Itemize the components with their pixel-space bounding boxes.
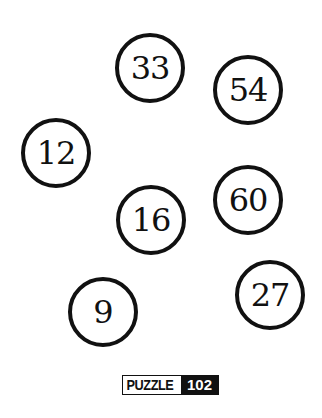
puzzle-label: PUZZLE xyxy=(123,376,172,394)
circle-33: 33 xyxy=(115,33,185,103)
circle-16: 16 xyxy=(116,185,186,255)
circle-number: 33 xyxy=(131,52,170,84)
circle-60: 60 xyxy=(213,165,283,235)
circle-9: 9 xyxy=(68,277,138,347)
circle-54: 54 xyxy=(213,55,283,125)
circle-number: 12 xyxy=(37,137,76,169)
puzzle-badge: PUZZLE 102 xyxy=(122,375,219,395)
puzzle-number: 102 xyxy=(181,376,218,394)
circle-number: 54 xyxy=(229,74,268,106)
circle-number: 9 xyxy=(93,296,112,328)
circle-number: 27 xyxy=(251,279,290,311)
circle-12: 12 xyxy=(21,118,91,188)
circle-27: 27 xyxy=(235,260,305,330)
circle-number: 60 xyxy=(229,184,268,216)
circle-number: 16 xyxy=(132,204,171,236)
